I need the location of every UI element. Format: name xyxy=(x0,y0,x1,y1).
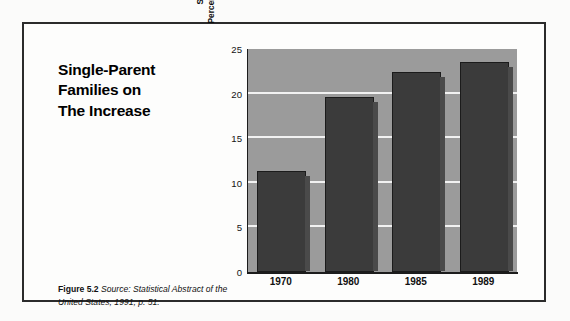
figure-caption-label: Figure 5.2 xyxy=(58,284,99,294)
figure-title-line-3: The Increase xyxy=(58,101,218,121)
x-axis-tick-labels: 1970198019851989 xyxy=(247,276,517,294)
y-axis-title-line-2: Percentage of Families with Children xyxy=(206,0,217,23)
x-axis-line xyxy=(247,272,518,274)
y-axis-tick-label: 25 xyxy=(216,44,242,55)
plot-area xyxy=(247,49,517,272)
y-axis-tick-label: 5 xyxy=(216,222,242,233)
y-axis-tick-label: 0 xyxy=(216,267,242,278)
y-axis-tick-label: 10 xyxy=(216,177,242,188)
bar xyxy=(460,62,509,273)
x-axis-tick-label: 1970 xyxy=(247,276,315,287)
figure-title: Single-Parent Families on The Increase xyxy=(58,60,218,121)
figure-title-line-2: Families on xyxy=(58,80,218,100)
y-axis-tick-label: 15 xyxy=(216,133,242,144)
x-axis-tick-label: 1989 xyxy=(450,276,518,287)
x-axis-tick-label: 1980 xyxy=(315,276,383,287)
y-axis-title-line-1: Single-Parent Families as a xyxy=(195,0,206,23)
y-axis-tick-labels: 0510152025 xyxy=(216,40,242,272)
bar xyxy=(392,72,441,272)
bar-chart: Single-Parent Families as a Percentage o… xyxy=(197,40,522,288)
y-axis-tick-label: 20 xyxy=(216,88,242,99)
figure-page: Single-Parent Families on The Increase F… xyxy=(0,0,570,321)
bar xyxy=(325,97,374,272)
x-axis-tick-label: 1985 xyxy=(382,276,450,287)
bar xyxy=(257,171,306,272)
